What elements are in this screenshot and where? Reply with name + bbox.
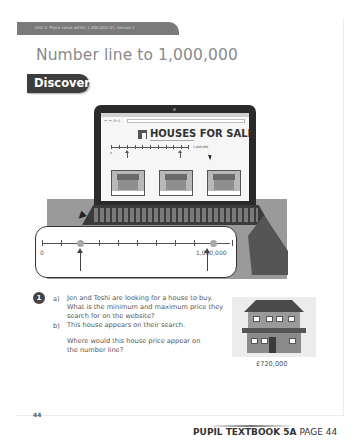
number-line-start-label: 0 xyxy=(40,249,44,256)
textbook-footer: PUPIL TEXTBOOK 5A PAGE 44 xyxy=(193,427,337,437)
question-number-badge: 1 xyxy=(33,292,45,304)
number-line-callout: 0 1,000,000 xyxy=(35,226,237,278)
laptop-screen: ← → ⟳ ⌂ HOUSES FOR SALE 0 1,000,000 xyxy=(101,113,249,201)
browser-nav-icons: ← → ⟳ ⌂ xyxy=(104,118,120,123)
arrow-up-icon xyxy=(80,250,81,271)
discover-badge: Discover xyxy=(27,74,89,93)
unit-header-bar: Unit 2: Place value within 1,000,000 (2)… xyxy=(17,22,179,35)
maximum-price-dot xyxy=(210,240,217,247)
number-line-end-label: 1,000,000 xyxy=(196,249,227,256)
mini-line-start-label: 0 xyxy=(110,151,112,155)
footer-page-label: PAGE 44 xyxy=(299,427,337,437)
browser-url-bar xyxy=(127,119,245,123)
laptop-illustration: ← → ⟳ ⌂ HOUSES FOR SALE 0 1,000,000 xyxy=(94,105,256,205)
house-photo xyxy=(232,297,316,357)
house-listing-thumbnail xyxy=(159,170,193,196)
mini-arrow-up-icon xyxy=(180,151,181,158)
mouse-cursor-icon xyxy=(208,154,213,161)
number-line-axis xyxy=(42,243,230,244)
page-number: 44 xyxy=(33,411,41,418)
website-subheading xyxy=(150,140,194,141)
house-price: £720,000 xyxy=(256,360,287,368)
part-b-followup-text: Where would this house price appear on t… xyxy=(67,337,202,355)
book-label: PUPIL TEXTBOOK 5A xyxy=(193,427,297,437)
arrow-up-icon xyxy=(207,250,208,271)
browser-titlebar xyxy=(101,113,249,117)
mini-arrow-up-icon xyxy=(127,151,128,158)
mini-line-end-label: 1,000,000 xyxy=(193,145,208,149)
webcam-icon xyxy=(173,108,176,111)
mini-number-line xyxy=(111,147,189,148)
laptop-keyboard xyxy=(82,205,270,225)
page-title: Number line to 1,000,000 xyxy=(36,46,238,64)
website-heading: HOUSES FOR SALE xyxy=(150,128,249,139)
discover-label: Discover xyxy=(34,76,90,90)
part-b-text: This house appears on their search. xyxy=(67,321,225,330)
part-b-label: b) xyxy=(53,322,60,330)
house-logo-icon xyxy=(138,130,147,139)
part-a-text: Jen and Toshi are looking for a house to… xyxy=(67,294,225,321)
part-a-label: a) xyxy=(53,295,60,303)
house-listing-thumbnail xyxy=(207,170,241,196)
minimum-price-dot xyxy=(77,240,84,247)
unit-label: Unit 2: Place value within 1,000,000 (2)… xyxy=(35,25,135,30)
house-listing-thumbnail xyxy=(111,170,145,196)
